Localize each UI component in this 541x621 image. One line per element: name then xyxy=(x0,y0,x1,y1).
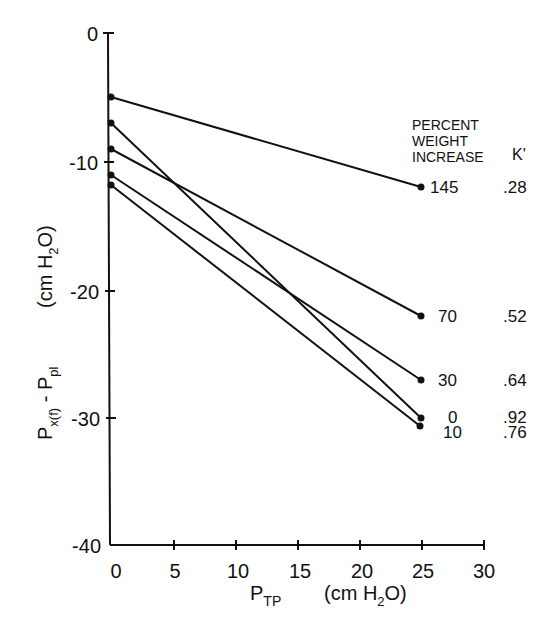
svg-text:WEIGHT: WEIGHT xyxy=(412,133,468,149)
svg-text:.76: .76 xyxy=(503,423,527,442)
x-tick-labels: 0 5 10 15 20 25 30 xyxy=(110,560,495,582)
svg-text:30: 30 xyxy=(438,371,457,390)
svg-text:(cm H2O): (cm H2O) xyxy=(34,225,61,308)
data-points xyxy=(108,94,425,430)
y-tick-label: -30 xyxy=(71,408,100,430)
y-tick-label: -40 xyxy=(72,535,101,557)
y-axis xyxy=(108,33,110,545)
y-tick-label: 0 xyxy=(87,23,98,45)
svg-text:.52: .52 xyxy=(503,307,527,326)
y-axis-title: Px(f) - Ppl (cm H2O) xyxy=(34,225,61,440)
series-10 xyxy=(111,185,420,426)
svg-text:0: 0 xyxy=(110,560,121,582)
svg-text:INCREASE: INCREASE xyxy=(412,149,484,165)
svg-text:145: 145 xyxy=(430,178,458,197)
svg-text:70: 70 xyxy=(438,307,457,326)
data-lines xyxy=(111,97,421,426)
svg-text:PERCENT: PERCENT xyxy=(412,117,479,133)
x-axis-title: PTP xyxy=(250,582,281,609)
svg-text:10: 10 xyxy=(443,423,462,442)
svg-text:20: 20 xyxy=(351,560,373,582)
svg-text:25: 25 xyxy=(412,560,434,582)
svg-text:30: 30 xyxy=(473,560,495,582)
svg-text:Px(f) - Ppl: Px(f) - Ppl xyxy=(34,367,61,440)
series-30 xyxy=(111,175,421,380)
legend-header: PERCENT WEIGHT INCREASE K' xyxy=(412,117,526,165)
chart: 0 -10 -20 -30 -40 0 5 10 15 20 25 30 PTP… xyxy=(0,0,541,621)
x-axis-units: (cm H2O) xyxy=(324,582,407,609)
svg-text:5: 5 xyxy=(169,560,180,582)
y-tick-label: -10 xyxy=(69,152,98,174)
series-0 xyxy=(111,123,421,418)
svg-text:.64: .64 xyxy=(503,371,527,390)
series-labels: 145 .28 70 .52 30 .64 0 .92 10 .76 xyxy=(430,178,527,442)
svg-text:.28: .28 xyxy=(503,178,527,197)
y-tick-label: -20 xyxy=(70,281,99,303)
svg-text:15: 15 xyxy=(289,560,311,582)
svg-text:10: 10 xyxy=(227,560,249,582)
svg-text:K': K' xyxy=(512,146,526,163)
